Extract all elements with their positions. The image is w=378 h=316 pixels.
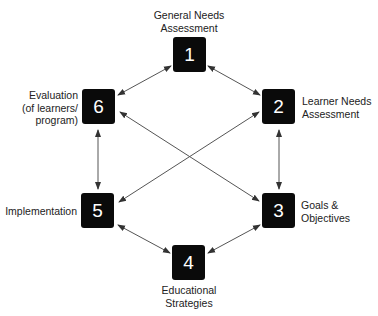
arrow-1-6 bbox=[118, 66, 171, 95]
node-1-box: 1 bbox=[173, 37, 206, 72]
node-3-label: Goals & Objectives bbox=[301, 199, 350, 224]
node-6-box: 6 bbox=[82, 89, 115, 124]
node-1-label: General Needs Assessment bbox=[139, 9, 239, 34]
node-4-label: Educational Strategies bbox=[139, 284, 239, 309]
arrow-5-4 bbox=[118, 225, 170, 253]
node-5-box: 5 bbox=[81, 193, 114, 228]
curriculum-cycle-diagram: General Needs Assessment 1 2 Learner Nee… bbox=[0, 0, 378, 316]
node-5-label: Implementation bbox=[0, 205, 77, 218]
arrow-2-5 bbox=[119, 112, 259, 202]
node-4-box: 4 bbox=[172, 245, 205, 280]
arrow-1-2 bbox=[208, 66, 260, 95]
arrow-3-4 bbox=[208, 225, 260, 253]
node-3-box: 3 bbox=[262, 193, 295, 228]
node-2-label: Learner Needs Assessment bbox=[302, 95, 371, 120]
node-2-box: 2 bbox=[262, 89, 295, 124]
node-6-label: Evaluation (of learners/ program) bbox=[0, 89, 78, 127]
